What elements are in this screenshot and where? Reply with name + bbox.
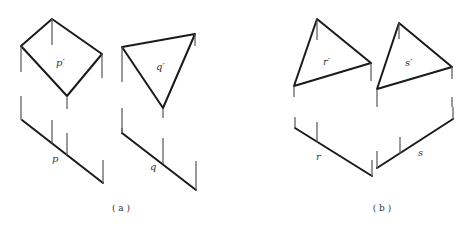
caption-b: ( b ) (373, 203, 392, 213)
plane-q: q′ q (122, 34, 196, 190)
label-r: r (316, 151, 322, 162)
label-q-prime: q′ (156, 61, 165, 72)
plane-s: s′ s (377, 23, 453, 168)
label-p-prime: p′ (56, 57, 65, 68)
plane-p-projector-lines (21, 19, 103, 183)
label-s: s (418, 147, 423, 158)
plane-s-front-view (377, 23, 452, 89)
plane-r-top-view-line (295, 128, 372, 176)
plane-p: p′ p (21, 19, 103, 183)
label-q: q (150, 161, 156, 172)
plane-r: r′ r (294, 19, 372, 176)
label-p: p (52, 153, 59, 164)
label-s-prime: s′ (405, 57, 413, 68)
plane-s-top-view-line (377, 119, 453, 168)
orthographic-projection-diagram: p′ p q′ q ( a ) r′ r s′ s ( b ) (0, 0, 468, 226)
label-r-prime: r′ (323, 56, 331, 67)
caption-a: ( a ) (112, 203, 130, 213)
plane-s-projector-lines (377, 23, 453, 168)
plane-p-top-view-line (22, 120, 103, 183)
plane-r-front-view (294, 19, 371, 86)
figure-b: r′ r s′ s ( b ) (294, 19, 453, 213)
figure-a: p′ p q′ q ( a ) (21, 19, 196, 213)
plane-q-top-view-line (122, 133, 196, 190)
